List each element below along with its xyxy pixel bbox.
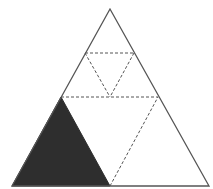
dashed-line-4: [110, 53, 134, 97]
shaded-sub-triangle: [12, 97, 110, 186]
triangle-diagram: [0, 0, 213, 189]
dashed-line-1: [110, 97, 158, 186]
dashed-line-3: [85, 53, 110, 97]
